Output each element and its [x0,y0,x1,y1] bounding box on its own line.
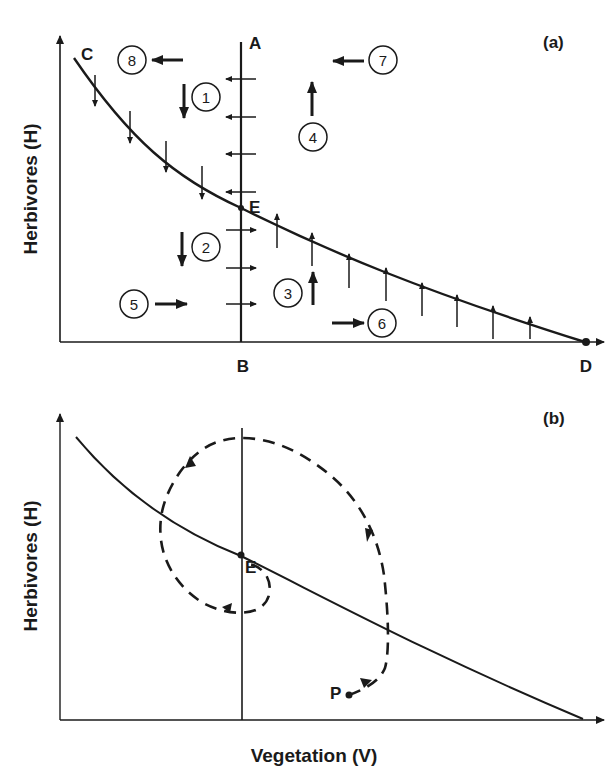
panel-b: E P (b) Herbivores (H) Vegetation (V) [20,409,604,766]
up-arrows [277,214,530,339]
point-d [582,338,590,346]
vegetation-isocline [74,58,585,342]
region-6: 6 [332,309,396,337]
figure: 8 7 1 4 2 3 5 [0,0,614,776]
y-axis-label-b: Herbivores (H) [20,501,41,632]
y-axis-label-a: Herbivores (H) [20,124,41,255]
region-4: 4 [299,82,327,151]
region-1: 1 [184,83,220,118]
x-axis-label: Vegetation (V) [251,745,378,766]
trajectory-arrow-icon [365,528,373,542]
label-a: A [249,34,261,53]
equilibrium-point [238,552,245,559]
panel-a: 8 7 1 4 2 3 5 [20,33,604,376]
label-b: B [237,357,249,376]
svg-text:2: 2 [202,239,210,256]
label-c: C [81,45,93,64]
svg-text:8: 8 [128,52,136,69]
panel-tag-a: (a) [543,33,564,52]
svg-text:4: 4 [309,129,317,146]
panel-tag-b: (b) [543,409,565,428]
down-arrows [95,75,202,199]
label-d: D [580,357,592,376]
svg-text:7: 7 [379,52,387,69]
region-7: 7 [333,46,397,74]
label-e: E [249,198,260,217]
trajectory-arrow-icon [360,678,372,688]
label-p: P [330,684,341,703]
start-point [346,692,353,699]
region-3: 3 [274,272,313,307]
region-8: 8 [118,46,183,74]
label-e: E [245,558,256,577]
region-2: 2 [182,232,220,266]
svg-text:6: 6 [378,315,386,332]
svg-text:5: 5 [130,296,138,313]
equilibrium-point [238,205,244,211]
svg-text:1: 1 [202,89,210,106]
trajectory-arrow-icon [185,456,196,468]
region-5: 5 [120,290,187,318]
trajectory [160,438,388,695]
vegetation-isocline [76,437,583,719]
svg-text:3: 3 [284,285,292,302]
